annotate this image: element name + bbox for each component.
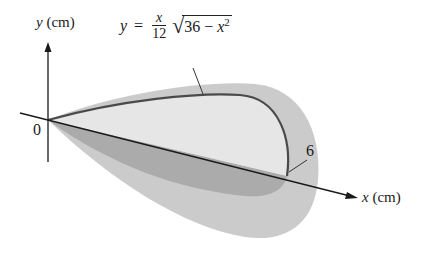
eq-radical: √36 − x2 — [172, 13, 232, 39]
y-axis-arrowhead — [45, 42, 52, 52]
eq-equals: = — [134, 17, 143, 34]
eq-frac-den: 12 — [152, 26, 166, 42]
x-axis-unit: (cm) — [372, 189, 400, 205]
eq-radicand: 36 − x2 — [182, 15, 232, 36]
eq-lhs: y — [120, 17, 127, 34]
eq-radicand-op: − — [204, 19, 213, 36]
eq-frac-num: x — [152, 10, 166, 26]
y-axis-unit: (cm) — [46, 14, 74, 30]
x-axis-var: x — [362, 189, 369, 205]
y-axis-label: y (cm) — [36, 15, 75, 30]
x-axis-arrowhead — [345, 192, 358, 199]
origin-label: 0 — [33, 122, 41, 138]
eq-radicand-exp: 2 — [224, 16, 230, 28]
curve-equation: y = x 12 √36 − x2 — [120, 10, 232, 56]
x-axis-label: x (cm) — [362, 190, 401, 205]
eq-fraction: x 12 — [152, 10, 166, 42]
curve-end-label: 6 — [306, 143, 314, 159]
eq-radicand-const: 36 — [184, 19, 200, 36]
y-axis-var: y — [36, 14, 43, 30]
